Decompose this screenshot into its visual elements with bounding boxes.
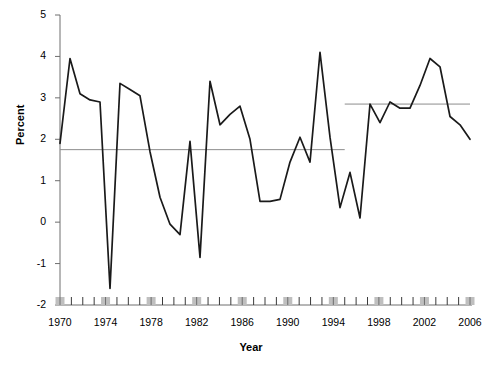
- axis-lines: [60, 15, 472, 305]
- x-tick-label: 1970: [38, 316, 82, 328]
- x-tick-label: 2002: [402, 316, 446, 328]
- y-tick-label: -1: [20, 257, 46, 269]
- y-axis-ticks: [55, 15, 60, 305]
- line-chart-canvas: [0, 0, 502, 365]
- x-tick-label: 1994: [311, 316, 355, 328]
- x-tick-label: 1974: [84, 316, 128, 328]
- x-tick-label: 1982: [175, 316, 219, 328]
- y-tick-label: 5: [20, 8, 46, 20]
- y-tick-label: 1: [20, 174, 46, 186]
- x-axis-title: Year: [0, 341, 502, 353]
- y-tick-label: 4: [20, 49, 46, 61]
- y-tick-label: 2: [20, 132, 46, 144]
- y-tick-label: -2: [20, 298, 46, 310]
- y-tick-label: 3: [20, 91, 46, 103]
- x-tick-label: 1998: [357, 316, 401, 328]
- chart-figure: Percent Year 543210-1-2 1970197419781982…: [0, 0, 502, 365]
- y-tick-label: 0: [20, 215, 46, 227]
- x-tick-label: 1978: [129, 316, 173, 328]
- reference-lines: [60, 104, 470, 150]
- x-tick-label: 1990: [266, 316, 310, 328]
- x-axis-ticks: [56, 297, 475, 305]
- x-tick-label: 1986: [220, 316, 264, 328]
- x-tick-label: 2006: [448, 316, 492, 328]
- data-series-line: [60, 52, 470, 288]
